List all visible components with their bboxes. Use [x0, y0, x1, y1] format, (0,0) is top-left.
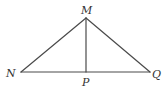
triangle-diagram: M N P Q	[0, 0, 166, 90]
segment-mq	[86, 18, 150, 72]
label-n: N	[5, 67, 16, 80]
label-p: P	[81, 76, 90, 89]
segment-mn	[21, 18, 86, 72]
label-q: Q	[152, 68, 161, 81]
label-m: M	[80, 4, 93, 17]
